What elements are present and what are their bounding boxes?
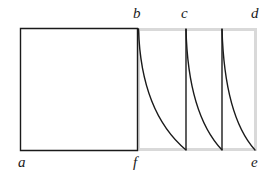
vertex-label-e: e (251, 155, 258, 170)
vertex-label-d: d (251, 6, 259, 21)
arc-2 (186, 29, 222, 150)
arc-3 (222, 29, 255, 150)
arc-1 (139, 29, 187, 150)
geometry-figure: a b c d e f (0, 0, 273, 177)
vertex-label-b: b (133, 6, 141, 21)
vertex-label-f: f (133, 155, 137, 170)
diagram-canvas (0, 0, 273, 177)
square-abfa (21, 29, 138, 151)
square-bdef (139, 30, 256, 150)
vertex-label-c: c (181, 6, 188, 21)
vertex-label-a: a (18, 155, 26, 170)
